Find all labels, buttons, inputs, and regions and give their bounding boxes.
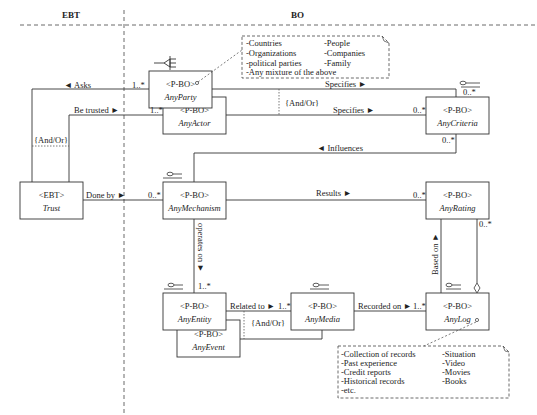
stereotype-label: <EBT> — [39, 190, 65, 200]
class-any-media[interactable]: <P-BO> AnyMedia — [291, 293, 354, 330]
label-specifies-top: Specifies ► — [325, 79, 367, 89]
class-any-log[interactable]: <P-BO> AnyLog — [426, 293, 489, 330]
class-name: AnyLog — [443, 314, 470, 324]
mult-criteria-left: 0..* — [413, 105, 426, 115]
label-operates-on: operates on ► — [196, 223, 206, 272]
label-asks: ◄ Asks — [64, 80, 91, 90]
class-any-rating[interactable]: <P-BO> AnyRating — [426, 182, 489, 219]
mult-criteria-bottom: 0..* — [442, 135, 455, 145]
class-name: AnyActor — [177, 118, 211, 128]
class-name: AnyEntity — [177, 314, 212, 324]
note-item: -People — [324, 38, 350, 48]
mult-actor-trusted: 1..* — [150, 105, 163, 115]
class-name: AnyEvent — [191, 342, 225, 352]
stereotype-label: <P-BO> — [194, 329, 223, 339]
label-and-or-bottom: {And/Or} — [251, 318, 285, 328]
note-item: -Any mixture of the above — [246, 67, 336, 77]
class-name: Trust — [43, 203, 61, 213]
stereotype-label: <P-BO> — [166, 79, 195, 89]
class-trust[interactable]: <EBT> Trust — [20, 182, 83, 219]
class-any-mechanism[interactable]: <P-BO> AnyMechanism — [163, 182, 226, 219]
mult-criteria-top: 0..* — [463, 87, 476, 97]
mult-party-asks: 1..* — [132, 80, 145, 90]
label-and-or-top: {And/Or} — [285, 98, 319, 108]
interface-icon-entity — [164, 283, 183, 289]
note-item: -Countries — [246, 38, 282, 48]
interface-icon-media — [310, 283, 329, 289]
class-name: AnyParty — [163, 92, 196, 102]
diagram-canvas: EBT BO <P-BO> AnyActor <P-BO> AnyParty <… — [0, 0, 537, 415]
assoc-influences[interactable] — [194, 134, 456, 182]
class-name: AnyMedia — [304, 314, 340, 324]
note-item: -etc. — [341, 385, 356, 395]
interface-icon-log — [446, 283, 461, 289]
class-name: AnyMechanism — [167, 203, 220, 213]
mult-log-left: 1..* — [413, 301, 426, 311]
stereotype-label: <P-BO> — [180, 301, 209, 311]
note-item: -Companies — [324, 48, 365, 58]
note-log: -Collection of records -Past experience … — [338, 322, 509, 398]
mult-mechanism-done-by: 0..* — [148, 190, 161, 200]
assoc-event-media[interactable] — [240, 330, 322, 339]
interface-icon-mechanism — [163, 172, 182, 178]
fork-icon — [154, 56, 176, 70]
label-be-trusted: Be trusted ► — [74, 105, 119, 115]
class-name: AnyCriteria — [436, 118, 478, 128]
stereotype-label: <P-BO> — [443, 301, 472, 311]
stereotype-label: <P-BO> — [180, 190, 209, 200]
class-any-criteria[interactable]: <P-BO> AnyCriteria — [426, 97, 489, 134]
label-and-or-left: {And/Or} — [34, 135, 68, 145]
stereotype-label: <P-BO> — [308, 301, 337, 311]
aggregation-diamond-icon — [474, 283, 480, 293]
class-name: AnyRating — [439, 203, 476, 213]
mult-media-left: 1..* — [278, 301, 291, 311]
label-based-on: Based on ► — [430, 233, 440, 275]
lane-label-bo: BO — [291, 10, 304, 20]
label-done-by: Done by ► — [86, 190, 126, 200]
stereotype-label: <P-BO> — [443, 190, 472, 200]
label-related-to: Related to ► — [230, 301, 275, 311]
assoc-be-trusted[interactable] — [69, 115, 163, 182]
label-recorded-on: Recorded on ► — [358, 301, 412, 311]
label-results: Results ► — [316, 188, 352, 198]
label-influences: ◄ Influences — [317, 143, 363, 153]
mult-entity-top: 1..* — [198, 281, 211, 291]
class-any-entity[interactable]: <P-BO> AnyEntity — [163, 293, 226, 330]
mult-rating-left: 0..* — [413, 190, 426, 200]
lane-label-ebt: EBT — [62, 10, 80, 20]
note-item: -Books — [442, 376, 467, 386]
assoc-specifies-top[interactable] — [212, 89, 456, 97]
class-any-party[interactable]: <P-BO> AnyParty — [149, 71, 212, 108]
note-item: -Organizations — [246, 48, 296, 58]
note-item: -Family — [324, 58, 352, 68]
note-connector — [198, 50, 242, 82]
label-specifies-mid: Specifies ► — [333, 105, 375, 115]
mult-rating-right: 0..* — [479, 219, 492, 229]
stereotype-label: <P-BO> — [443, 105, 472, 115]
note-party: -Countries -Organizations -political par… — [198, 36, 389, 82]
